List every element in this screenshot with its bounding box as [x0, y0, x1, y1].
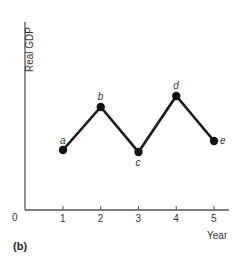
gdp-line	[63, 96, 214, 152]
data-point-e	[210, 137, 218, 145]
x-axis-label: Year	[207, 231, 227, 241]
x-tick-label: 4	[173, 214, 179, 224]
data-point-a	[59, 146, 67, 154]
point-label-e: e	[220, 136, 226, 146]
point-label-b: b	[98, 92, 104, 102]
chart-canvas	[0, 0, 241, 264]
data-point-b	[97, 103, 105, 111]
origin-label: 0	[12, 213, 18, 223]
point-label-d: d	[173, 81, 179, 91]
point-label-a: a	[60, 136, 66, 146]
data-markers	[59, 92, 218, 156]
data-point-c	[134, 148, 142, 156]
x-tick-label: 5	[211, 214, 217, 224]
y-axis-label: Real GDP	[24, 25, 35, 75]
point-label-c: c	[136, 158, 141, 168]
panel-label: (b)	[13, 240, 27, 252]
x-tick-label: 1	[60, 214, 66, 224]
x-tick-label: 3	[136, 214, 142, 224]
data-point-d	[172, 92, 180, 100]
x-tick-label: 2	[98, 214, 104, 224]
